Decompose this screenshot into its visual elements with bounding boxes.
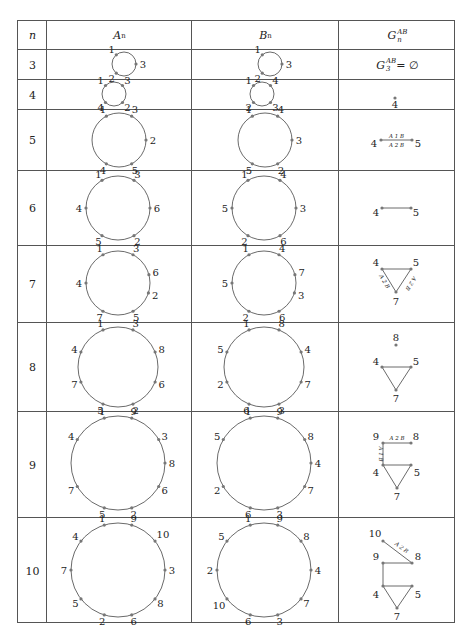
node-label: 4 [392, 99, 398, 110]
graph-node [380, 206, 383, 209]
graph-node [290, 138, 293, 141]
graph-node [309, 461, 312, 464]
node-label: 4 [278, 104, 284, 115]
node-label: 8 [169, 458, 175, 469]
graph-node [215, 568, 218, 571]
graph-node [381, 539, 384, 542]
graph-node [76, 485, 79, 488]
graph-edge [382, 367, 396, 390]
graph-node [380, 365, 383, 368]
node-label: 2 [124, 102, 130, 113]
edge-label: A 1 B [388, 133, 404, 139]
cycle-ring [238, 113, 292, 167]
node-label: 1 [99, 513, 105, 524]
graph-node [299, 350, 302, 353]
graph-node [299, 539, 302, 542]
g-graph-n6: 45 [373, 206, 419, 218]
node-label: 3 [286, 59, 292, 70]
graph-node [69, 568, 72, 571]
graph-node [381, 584, 384, 587]
cycle-ring [92, 113, 146, 167]
node-label: 5 [413, 356, 419, 367]
graph-node [381, 441, 384, 444]
a-graph-n9: 193862574 [68, 406, 175, 520]
graph-node [410, 138, 413, 141]
node-label: 1 [243, 243, 249, 254]
node-label: 6 [158, 379, 164, 390]
node-label: 7 [393, 296, 399, 307]
graph-node [303, 485, 306, 488]
graph-node [104, 84, 107, 87]
node-label: 6 [152, 267, 158, 278]
node-label: 7 [61, 565, 67, 576]
graph-node [381, 463, 384, 466]
node-label: 4 [280, 169, 286, 180]
node-label: 1 [245, 75, 251, 86]
graph-node [153, 350, 156, 353]
node-label: 7 [393, 393, 399, 404]
node-label: 10 [213, 600, 226, 611]
graph-node [249, 416, 252, 419]
edge-label: A 2 B [393, 540, 409, 554]
graph-node [84, 206, 87, 209]
graph-node [410, 561, 413, 564]
node-label: 1 [100, 104, 106, 115]
graph-node [261, 72, 264, 75]
graph-node [394, 388, 397, 391]
node-label: 2 [152, 290, 158, 301]
a-graph-n7: 1362574 [76, 243, 159, 323]
node-label: 2 [217, 379, 223, 390]
node-label: 8 [158, 344, 164, 355]
node-label: 6 [245, 616, 251, 627]
graph-node [381, 561, 384, 564]
graph-edge [397, 465, 411, 488]
node-label: 8 [278, 318, 284, 329]
node-label: 8 [415, 551, 421, 562]
node-label: 5 [222, 203, 228, 214]
a-graph-n5: 13254 [92, 104, 156, 175]
node-label: 9 [373, 551, 379, 562]
g-graph-n4: 4 [392, 96, 398, 110]
node-label: 4 [71, 344, 77, 355]
cycle-ring [224, 327, 304, 407]
node-label: 5 [222, 278, 228, 289]
node-label: 10 [157, 529, 170, 540]
node-label: 3 [298, 290, 304, 301]
graph-node [130, 416, 133, 419]
graph-node [130, 523, 133, 526]
node-label: 9 [277, 406, 283, 417]
graph-node [276, 523, 279, 526]
graph-node [147, 273, 150, 276]
graph-node [395, 606, 398, 609]
graph-node [249, 523, 252, 526]
node-label: 4 [373, 589, 379, 600]
node-label: 8 [413, 431, 419, 442]
graph-node [299, 597, 302, 600]
cycle-ring [217, 523, 311, 617]
node-label: 5 [217, 344, 223, 355]
node-label: 7 [303, 598, 309, 609]
node-label: 4 [272, 75, 278, 86]
node-label: 7 [394, 491, 400, 502]
node-label: 4 [373, 257, 379, 268]
node-label: 1 [245, 406, 251, 417]
node-label: 3 [140, 59, 146, 70]
node-label: 1 [95, 169, 101, 180]
graph-node [79, 539, 82, 542]
g-graph-n9: A 2 BA 1 B98457 [373, 431, 420, 502]
cycle-ring [78, 327, 158, 407]
node-label: 2 [207, 565, 213, 576]
node-label: 3 [300, 203, 306, 214]
graph-node [157, 438, 160, 441]
edge-label: A 1 B [378, 445, 384, 461]
node-label: 7 [68, 485, 74, 496]
graph-node [303, 438, 306, 441]
node-label: 4 [373, 467, 379, 478]
graph-edge [383, 465, 397, 488]
graph-node [148, 206, 151, 209]
cycle-ring [217, 416, 311, 510]
graph-node [163, 461, 166, 464]
node-label: 4 [68, 431, 74, 442]
node-label: 3 [296, 135, 302, 146]
graph-node [225, 350, 228, 353]
